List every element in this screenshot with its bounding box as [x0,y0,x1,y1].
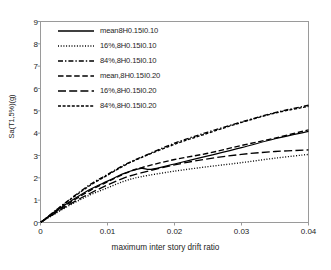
legend-item[interactable]: mean,8H0.15I0.20 [57,68,207,83]
legend-item[interactable]: 16%,8H0.15I0.10 [57,38,207,53]
legend-item[interactable]: 16%,8H0.15I0.20 [57,83,207,98]
legend-item-label: mean8H0.15I0.10 [100,26,158,35]
legend-item-label: 16%,8H0.15I0.20 [100,86,156,95]
legend-item[interactable]: 84%,8H0.15I0.20 [57,98,207,113]
y-tick-label: 9 [34,17,38,26]
y-tick-label: 7 [34,62,38,71]
legend-item-label: 84%,8H0.15I0.20 [100,101,156,110]
legend-item-label: 16%,8H0.15I0.10 [100,41,156,50]
legend-line-swatch [57,85,95,97]
y-axis-label: Sa(T1,5%)(g) [2,0,22,232]
legend-item[interactable]: 84%,8H0.15I0.10 [57,53,207,68]
y-tick-label: 1 [34,196,38,205]
legend-line-swatch [57,55,95,67]
y-tick-label: 5 [34,106,38,115]
y-tick-label: 2 [34,173,38,182]
y-tick-label: 4 [34,129,38,138]
y-tick-label: 6 [34,84,38,93]
chart-legend: mean8H0.15I0.1016%,8H0.15I0.1084%,8H0.15… [57,23,207,113]
ida-curve-chart: Sa(T1,5%)(g) 0123456789 00.010.020.030.0… [0,0,331,270]
legend-line-swatch [57,70,95,82]
legend-line-swatch [57,40,95,52]
legend-item-label: 84%,8H0.15I0.10 [100,56,156,65]
y-tick-label: 0 [34,218,38,227]
y-axis-tick-labels: 0123456789 [22,0,38,270]
legend-item[interactable]: mean8H0.15I0.10 [57,23,207,38]
y-tick-label: 8 [34,39,38,48]
y-tick-label: 3 [34,151,38,160]
legend-item-label: mean,8H0.15I0.20 [100,71,160,80]
y-axis-label-text: Sa(T1,5%)(g) [8,94,17,138]
x-axis-label: maximum inter story drift ratio [0,243,331,252]
legend-line-swatch [57,25,95,37]
legend-line-swatch [57,100,95,112]
